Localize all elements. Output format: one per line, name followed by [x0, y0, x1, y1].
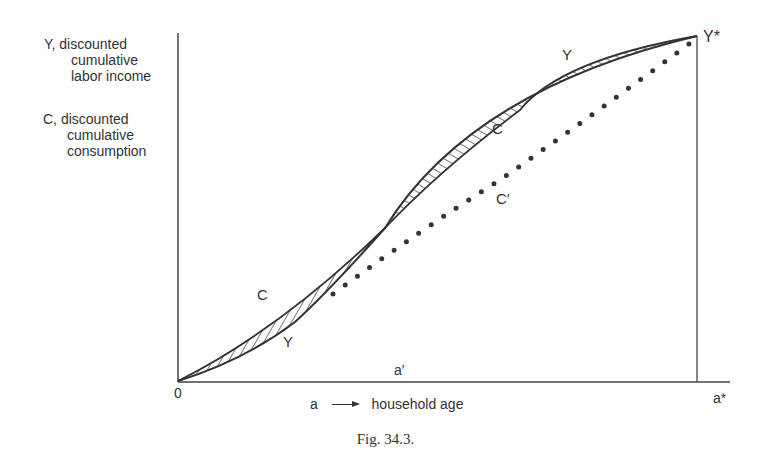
- label-y-early: Y: [283, 333, 293, 350]
- arrow-right-icon: [332, 404, 358, 405]
- label-y-late: Y: [562, 46, 572, 63]
- x-axis-label: a household age: [310, 396, 463, 412]
- origin-label: 0: [174, 385, 182, 401]
- a-star-label: a*: [713, 390, 726, 406]
- curve-c-prime: [333, 38, 697, 294]
- chart-plot: C Y C Y C′: [0, 0, 771, 463]
- curve-c: [178, 36, 697, 381]
- label-c-late: C: [492, 120, 503, 137]
- x-axis-var: a: [310, 396, 318, 412]
- label-c-early: C: [257, 286, 268, 303]
- curve-y: [178, 36, 697, 381]
- x-axis-text: household age: [372, 396, 464, 412]
- label-c-prime: C′: [496, 190, 510, 207]
- figure-caption: Fig. 34.3.: [0, 431, 771, 448]
- a-prime-label: a′: [394, 362, 404, 378]
- shaded-region-early: [178, 228, 385, 381]
- shaded-region-late: [385, 36, 697, 228]
- y-star-label: Y*: [703, 28, 720, 46]
